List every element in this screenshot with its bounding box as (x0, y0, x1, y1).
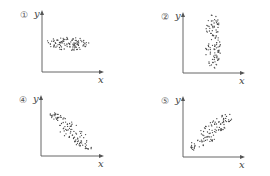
data-point (86, 42, 87, 43)
data-point (216, 123, 217, 124)
data-point (68, 129, 69, 130)
data-point (79, 136, 80, 137)
data-point (70, 41, 71, 42)
data-point (88, 42, 89, 43)
x-axis-label: x (98, 158, 104, 169)
data-point (211, 140, 212, 141)
y-axis-label: y (33, 8, 40, 19)
data-point (51, 117, 52, 118)
data-point (217, 31, 218, 32)
data-point (64, 45, 65, 46)
data-point (207, 136, 208, 137)
data-point (55, 117, 56, 118)
data-point (55, 113, 56, 114)
data-point (77, 138, 78, 139)
data-point (191, 142, 192, 143)
data-point (225, 120, 226, 121)
data-point (215, 36, 216, 37)
x-axis-label: x (239, 75, 245, 86)
data-point (65, 118, 66, 119)
data-point (218, 129, 219, 130)
data-point (216, 47, 217, 48)
data-point (55, 43, 56, 44)
data-point (64, 43, 65, 44)
data-point (211, 33, 212, 34)
data-point (50, 43, 51, 44)
panel-number-label: ⑤ (161, 96, 169, 106)
data-point (91, 147, 92, 148)
data-point (219, 46, 220, 47)
data-point (75, 139, 76, 140)
data-point (229, 114, 230, 115)
data-point (57, 40, 58, 41)
data-point (207, 131, 208, 132)
x-axis-label: x (239, 159, 245, 170)
x-axis-label: x (98, 74, 104, 85)
data-point (217, 39, 218, 40)
data-point (215, 37, 216, 38)
data-point (53, 40, 54, 41)
data-point (212, 122, 213, 123)
data-point (208, 125, 209, 126)
data-point (203, 144, 204, 145)
data-point (73, 131, 74, 132)
data-point (216, 57, 217, 58)
data-point (205, 128, 206, 129)
data-point (71, 40, 72, 41)
data-point (208, 61, 209, 62)
data-point (64, 135, 65, 136)
data-point (216, 35, 217, 36)
data-point (48, 42, 49, 43)
data-point (80, 40, 81, 41)
data-point (83, 137, 84, 138)
y-axis-label: y (32, 93, 39, 104)
data-point (217, 27, 218, 28)
data-point (212, 132, 213, 133)
data-point (59, 125, 60, 126)
data-point (65, 133, 66, 134)
data-point (222, 129, 223, 130)
data-point (79, 131, 80, 132)
data-point (212, 45, 213, 46)
data-point (83, 40, 84, 41)
data-point (79, 47, 80, 48)
data-point (59, 117, 60, 118)
data-point (214, 67, 215, 68)
data-point (218, 58, 219, 59)
data-point (219, 41, 220, 42)
data-point (210, 122, 211, 123)
data-point (206, 25, 207, 26)
data-point (212, 27, 213, 28)
data-point (213, 135, 214, 136)
data-point (86, 141, 87, 142)
data-point (214, 124, 215, 125)
data-point (203, 131, 204, 132)
data-point (82, 145, 83, 146)
data-point (90, 148, 91, 149)
data-point (219, 127, 220, 128)
data-point (212, 34, 213, 35)
data-point (191, 148, 192, 149)
data-point (194, 143, 195, 144)
data-point (230, 120, 231, 121)
data-point (85, 146, 86, 147)
data-point (67, 38, 68, 39)
data-point (208, 45, 209, 46)
y-arrow-icon (181, 12, 185, 17)
data-point (64, 130, 65, 131)
data-point (50, 46, 51, 47)
data-point (205, 126, 206, 127)
data-point (76, 125, 77, 126)
data-point (72, 134, 73, 135)
data-point (191, 145, 192, 146)
data-point (211, 20, 212, 21)
data-point (214, 57, 215, 58)
data-point (210, 52, 211, 53)
data-point (218, 121, 219, 122)
data-point (213, 26, 214, 27)
data-point (88, 148, 89, 149)
y-arrow-icon (39, 95, 43, 100)
data-point (211, 64, 212, 65)
data-point (53, 118, 54, 119)
data-point (201, 139, 202, 140)
